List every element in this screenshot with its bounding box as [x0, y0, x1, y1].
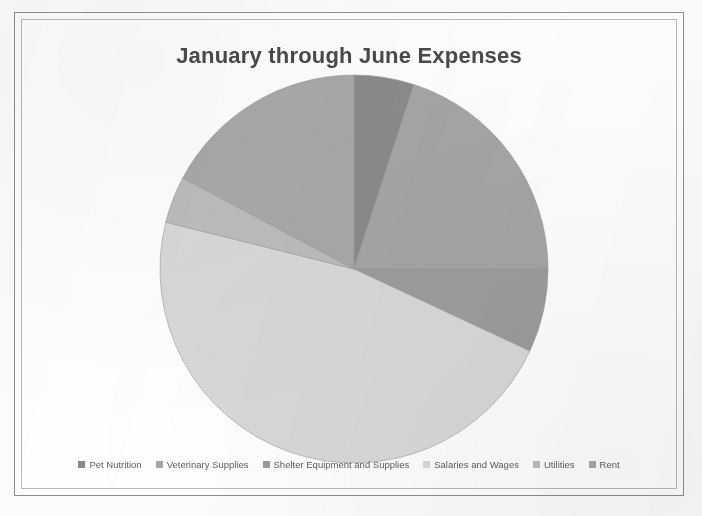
legend-swatch-icon [533, 461, 540, 468]
legend-item-label: Veterinary Supplies [167, 460, 249, 470]
legend-item-label: Pet Nutrition [89, 460, 141, 470]
legend-swatch-icon [423, 461, 430, 468]
legend-item-label: Salaries and Wages [434, 460, 519, 470]
legend-item[interactable]: Shelter Equipment and Supplies [263, 460, 410, 470]
legend-item-label: Utilities [544, 460, 575, 470]
legend-item[interactable]: Veterinary Supplies [156, 460, 249, 470]
pie-slice-group [160, 75, 548, 463]
legend-item[interactable]: Salaries and Wages [423, 460, 519, 470]
legend-swatch-icon [156, 461, 163, 468]
page-title: January through June Expenses [15, 43, 683, 69]
legend-item[interactable]: Rent [589, 460, 620, 470]
pie-chart-svg [156, 71, 552, 467]
legend-item-label: Shelter Equipment and Supplies [274, 460, 410, 470]
legend-item[interactable]: Pet Nutrition [78, 460, 141, 470]
legend-swatch-icon [263, 461, 270, 468]
legend-item[interactable]: Utilities [533, 460, 575, 470]
legend-swatch-icon [78, 461, 85, 468]
scanned-page: January through June Expenses Pet Nutrit… [0, 0, 702, 516]
legend-item-label: Rent [600, 460, 620, 470]
chart-legend: Pet NutritionVeterinary SuppliesShelter … [15, 460, 683, 470]
pie-chart-plot-area [156, 71, 552, 467]
chart-frame: January through June Expenses Pet Nutrit… [14, 12, 684, 496]
legend-swatch-icon [589, 461, 596, 468]
